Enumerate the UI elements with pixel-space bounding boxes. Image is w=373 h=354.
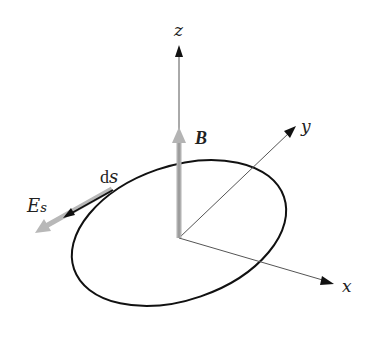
- y-axis-label: y: [300, 116, 311, 136]
- magnetic-field-vector: [172, 127, 186, 238]
- x-axis-label: x: [342, 276, 352, 296]
- magnetic-field-label: B: [194, 128, 207, 148]
- path-element-label: ds: [100, 166, 118, 187]
- path-element-vector: [63, 190, 113, 218]
- b-arrowhead-icon: [172, 127, 186, 143]
- z-arrowhead-icon: [175, 45, 183, 57]
- z-axis-label: z: [173, 20, 184, 40]
- electric-field-label: Es: [26, 195, 47, 216]
- x-axis: [179, 238, 334, 285]
- x-arrowhead-icon: [320, 276, 334, 285]
- loop-field-diagram: z y x B ds Es: [0, 0, 373, 354]
